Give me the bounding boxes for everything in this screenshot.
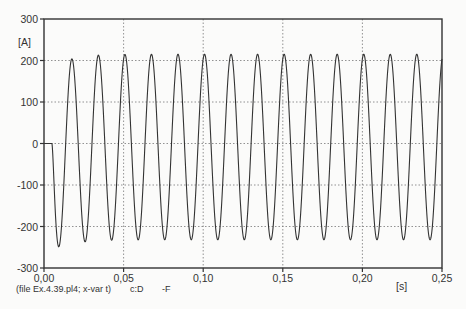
x-tick-label: 0,10 (193, 272, 214, 284)
y-tick-label: 300 (20, 13, 38, 25)
y-tick-label: -100 (17, 179, 38, 191)
y-tick-label: 200 (20, 55, 38, 67)
grid-lines (44, 19, 442, 268)
chart: 3002001000-100-200-300 0,000,050,100,150… (0, 0, 466, 309)
x-unit-label: [s] (396, 280, 407, 292)
x-tick-label: 0,15 (273, 272, 294, 284)
y-axis-ticks: 3002001000-100-200-300 (17, 13, 44, 274)
x-tick-label: 0,20 (352, 272, 373, 284)
file-caption: (file Ex.4.39.pl4; x-var t) (16, 284, 111, 294)
x-tick-label: 0,25 (432, 272, 453, 284)
x-tick-label: 0,05 (113, 272, 134, 284)
y-tick-label: -200 (17, 221, 38, 233)
y-unit-label: [A] (18, 36, 31, 48)
caption-var2: -F (162, 284, 171, 294)
x-axis-ticks: 0,000,050,100,150,200,25 (34, 268, 453, 284)
x-tick-label: 0,00 (34, 272, 55, 284)
current-waveform (44, 54, 442, 246)
y-tick-label: 100 (20, 96, 38, 108)
y-tick-label: 0 (32, 138, 38, 150)
caption-var1: c:D (130, 284, 144, 294)
